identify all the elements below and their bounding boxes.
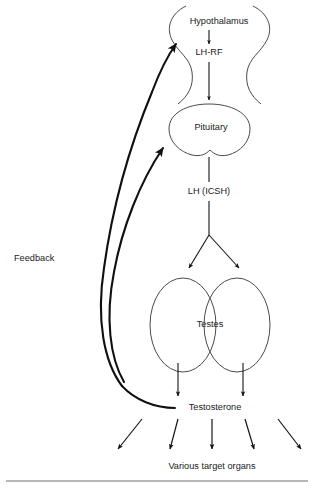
pituitary-label: Pituitary bbox=[194, 122, 228, 132]
target-ray-5 bbox=[278, 419, 301, 449]
feedback-curve-to-hypothalamus bbox=[101, 44, 176, 386]
testes-node: Testes bbox=[150, 278, 270, 372]
testosterone-output-flow: Testosterone bbox=[178, 363, 243, 412]
diagram-canvas: Hypothalamus LH-RF Pituitary LH (ICSH) T… bbox=[0, 0, 314, 491]
lh-icsh-label: LH (ICSH) bbox=[188, 186, 230, 196]
lh-branch-left-arrow bbox=[189, 235, 209, 268]
testes-label: Testes bbox=[197, 319, 224, 329]
feedback-pathways: Feedback bbox=[14, 44, 176, 408]
lhrf-label: LH-RF bbox=[195, 47, 222, 57]
endocrine-axis-diagram: Hypothalamus LH-RF Pituitary LH (ICSH) T… bbox=[0, 0, 314, 491]
lhrf-flow: LH-RF bbox=[195, 30, 222, 100]
target-ray-2 bbox=[170, 419, 178, 449]
feedback-curve-to-pituitary bbox=[109, 148, 163, 382]
pituitary-node: Pituitary bbox=[169, 104, 250, 156]
hypothalamus-right-outline bbox=[247, 6, 270, 104]
testosterone-label: Testosterone bbox=[189, 402, 242, 412]
lh-icsh-flow: LH (ICSH) bbox=[188, 157, 239, 268]
hypothalamus-label: Hypothalamus bbox=[190, 16, 249, 26]
lh-branch-right-arrow bbox=[209, 235, 239, 268]
feedback-shared-stem bbox=[122, 386, 175, 408]
target-organ-fan: Various target organs bbox=[118, 419, 301, 471]
target-ray-4 bbox=[245, 419, 254, 449]
feedback-label: Feedback bbox=[14, 253, 55, 263]
target-organs-label: Various target organs bbox=[168, 461, 256, 471]
target-ray-1 bbox=[118, 419, 142, 449]
